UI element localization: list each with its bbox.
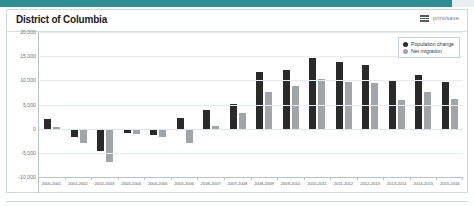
legend-item-net-migration[interactable]: Net migration xyxy=(403,48,454,54)
chart-card: District of Columbia print/save 20,00015… xyxy=(6,9,468,193)
x-axis: 2000-20012001-20022002-20032003-20042004… xyxy=(38,177,463,193)
bar-population-change[interactable] xyxy=(230,104,237,129)
gridline xyxy=(39,129,463,130)
bar-net-migration[interactable] xyxy=(80,129,87,144)
bottom-divider xyxy=(6,201,468,202)
print-save-label: print/save xyxy=(433,15,459,21)
print-save-button[interactable]: print/save xyxy=(420,15,459,22)
x-axis-tick-label: 2007-2008 xyxy=(224,177,251,193)
x-axis-tick-label: 2005-2006 xyxy=(171,177,198,193)
bar-net-migration[interactable] xyxy=(106,129,113,163)
x-axis-tick-label: 2015-2016 xyxy=(436,177,463,193)
bar-net-migration[interactable] xyxy=(186,129,193,143)
bar-population-change[interactable] xyxy=(309,58,316,129)
bar-population-change[interactable] xyxy=(415,75,422,129)
gridline xyxy=(39,105,463,106)
bar-net-migration[interactable] xyxy=(159,129,166,137)
plot-area: 20,00015,00010,0005,0000-5,000-10,000 20… xyxy=(7,32,467,193)
x-axis-tick-label: 2010-2011 xyxy=(304,177,331,193)
bar-net-migration[interactable] xyxy=(292,86,299,129)
bar-population-change[interactable] xyxy=(283,70,290,129)
gridline xyxy=(39,153,463,154)
x-axis-tick-label: 2008-2009 xyxy=(251,177,278,193)
y-axis: 20,00015,00010,0005,0000-5,000-10,000 xyxy=(9,32,36,193)
x-axis-tick-label: 2011-2012 xyxy=(330,177,357,193)
bar-population-change[interactable] xyxy=(177,118,184,129)
legend-label: Population change xyxy=(411,41,454,47)
y-axis-tick-label: -10,000 xyxy=(9,174,36,180)
legend-marker-icon xyxy=(403,42,408,47)
bar-population-change[interactable] xyxy=(150,129,157,136)
gridline xyxy=(39,32,463,33)
x-axis-tick-label: 2002-2003 xyxy=(91,177,118,193)
x-axis-tick-label: 2000-2001 xyxy=(38,177,65,193)
hamburger-icon xyxy=(420,15,429,22)
bar-population-change[interactable] xyxy=(336,62,343,128)
legend-marker-icon xyxy=(403,49,408,54)
legend-label: Net migration xyxy=(411,48,442,54)
page-title: District of Columbia xyxy=(16,14,107,25)
y-axis-tick-label: 5,000 xyxy=(9,102,36,108)
x-axis-tick-label: 2009-2010 xyxy=(277,177,304,193)
x-axis-tick-label: 2006-2007 xyxy=(197,177,224,193)
strip-edge xyxy=(452,0,474,7)
x-axis-tick-label: 2013-2014 xyxy=(383,177,410,193)
bar-net-migration[interactable] xyxy=(265,92,272,129)
y-axis-tick-label: 20,000 xyxy=(9,29,36,35)
y-axis-tick-label: -5,000 xyxy=(9,150,36,156)
y-axis-tick-label: 15,000 xyxy=(9,53,36,59)
top-teal-strip xyxy=(0,0,474,7)
bar-population-change[interactable] xyxy=(203,110,210,128)
screenshot-root: District of Columbia print/save 20,00015… xyxy=(0,0,474,206)
y-axis-tick-label: 10,000 xyxy=(9,77,36,83)
x-axis-tick-label: 2003-2004 xyxy=(118,177,145,193)
bar-net-migration[interactable] xyxy=(371,83,378,128)
card-header: District of Columbia print/save xyxy=(7,10,467,32)
x-axis-tick-label: 2001-2002 xyxy=(65,177,92,193)
bar-population-change[interactable] xyxy=(97,129,104,152)
bar-population-change[interactable] xyxy=(71,129,78,137)
y-axis-tick-label: 0 xyxy=(9,126,36,132)
bar-population-change[interactable] xyxy=(44,119,51,129)
x-axis-tick-label: 2014-2015 xyxy=(410,177,437,193)
bar-net-migration[interactable] xyxy=(239,113,246,128)
x-axis-tick-label: 2012-2013 xyxy=(357,177,384,193)
x-axis-tick-label: 2004-2005 xyxy=(144,177,171,193)
legend-item-population-change[interactable]: Population change xyxy=(403,41,454,47)
chart-legend: Population change Net migration xyxy=(398,37,460,58)
bar-net-migration[interactable] xyxy=(424,92,431,129)
gridline xyxy=(39,80,463,81)
bar-population-change[interactable] xyxy=(362,65,369,129)
